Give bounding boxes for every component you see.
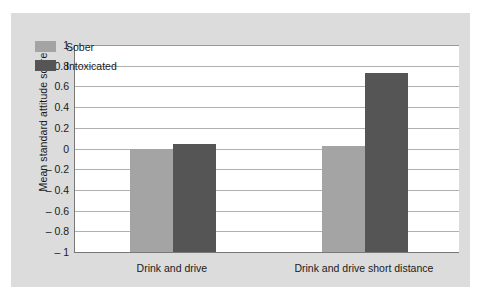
y-axis-tick-label: 0.6 [54, 80, 69, 92]
bar-intoxicated-0 [173, 144, 216, 252]
gridline [75, 66, 459, 67]
figure: Mean standard attitude score 10.80.60.40… [0, 0, 489, 307]
bar-sober-1 [322, 146, 365, 252]
gridline [75, 45, 459, 46]
legend-item-intoxicated: Intoxicated [35, 56, 117, 75]
legend-label-sober: Sober [66, 41, 94, 53]
y-axis-tick-label: 0.2 [54, 122, 69, 134]
chart-panel: Mean standard attitude score 10.80.60.40… [11, 13, 470, 287]
plot-area: 10.80.60.40.20– 0.2– 0.4– 0.6– 0.8– 1 [74, 45, 459, 253]
legend-swatch-intoxicated-icon [35, 60, 56, 71]
y-axis-tick-label: – 1 [54, 246, 69, 258]
y-axis-tick-label: 0 [63, 143, 69, 155]
legend-swatch-sober-icon [35, 41, 56, 52]
x-axis-tick-label: Drink and drive [137, 262, 208, 274]
legend-label-intoxicated: Intoxicated [66, 60, 117, 72]
y-axis-tick-label: – 0.4 [46, 184, 69, 196]
chart-legend: Sober Intoxicated [35, 37, 117, 75]
y-axis-tick-label: 0.4 [54, 101, 69, 113]
bar-sober-0 [130, 149, 173, 253]
y-axis-tick-label: – 0.2 [46, 163, 69, 175]
x-axis-tick-label: Drink and drive short distance [294, 262, 433, 274]
legend-item-sober: Sober [35, 37, 117, 56]
y-axis-tick-label: – 0.8 [46, 225, 69, 237]
y-axis-tick-label: – 0.6 [46, 205, 69, 217]
bar-intoxicated-1 [365, 73, 408, 252]
